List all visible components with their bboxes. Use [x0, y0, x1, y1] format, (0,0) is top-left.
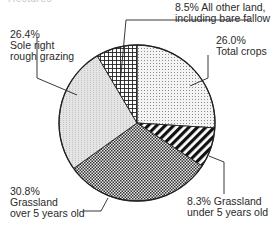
label-rough: 26.4% Sole right rough grazing — [10, 29, 74, 62]
pie-slice-total-crops — [137, 45, 215, 128]
label-grass-under-line2: under 5 years old — [187, 207, 268, 218]
label-other: 8.5% All other land, including bare fall… — [175, 2, 270, 24]
pie-slices — [59, 45, 215, 201]
label-crops: 26.0% Total crops — [216, 35, 267, 57]
label-grass-over: 30.8% Grassland over 5 years old — [10, 186, 85, 219]
label-other-line2: including bare fallow — [175, 13, 270, 24]
leader-grass-under — [209, 156, 224, 194]
leader-grass-over — [83, 198, 108, 211]
label-crops-line1: Total crops — [216, 46, 267, 57]
label-rough-line2: rough grazing — [10, 51, 74, 62]
label-grass-over-line2: over 5 years old — [10, 208, 85, 219]
label-grass-under: 8.3% Grassland under 5 years old — [187, 196, 268, 218]
pie-chart: Hectares — [0, 0, 274, 228]
